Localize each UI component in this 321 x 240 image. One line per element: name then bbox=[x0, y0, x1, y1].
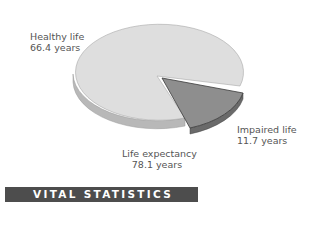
healthy-life-value: 66.4 years bbox=[30, 42, 84, 53]
life-expectancy-value: 78.1 years bbox=[122, 159, 192, 170]
vital-statistics-banner: VITAL STATISTICS bbox=[5, 187, 198, 202]
life-expectancy-name: Life expectancy bbox=[122, 148, 192, 159]
impaired-life-value: 11.7 years bbox=[237, 135, 297, 146]
life-expectancy-label: Life expectancy 78.1 years bbox=[122, 148, 192, 170]
healthy-life-name: Healthy life bbox=[30, 31, 84, 42]
banner-text: VITAL STATISTICS bbox=[33, 188, 173, 200]
impaired-life-label: Impaired life 11.7 years bbox=[237, 124, 297, 146]
healthy-life-label: Healthy life 66.4 years bbox=[30, 31, 84, 53]
impaired-life-name: Impaired life bbox=[237, 124, 297, 135]
